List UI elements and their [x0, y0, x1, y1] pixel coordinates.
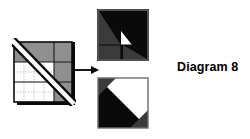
result-bottom-svg [97, 77, 149, 129]
transformation-arrow [74, 65, 100, 75]
diagram-canvas: Diagram 8 [0, 0, 250, 139]
source-block-svg [12, 38, 76, 106]
diagram-caption: Diagram 8 [177, 61, 238, 74]
result-bottom-figure [97, 77, 149, 129]
result-top-svg [97, 9, 149, 61]
arrow-right-icon [74, 65, 100, 75]
arrow-head [91, 66, 99, 74]
result-top-figure [97, 9, 149, 61]
source-block-figure [12, 38, 76, 106]
